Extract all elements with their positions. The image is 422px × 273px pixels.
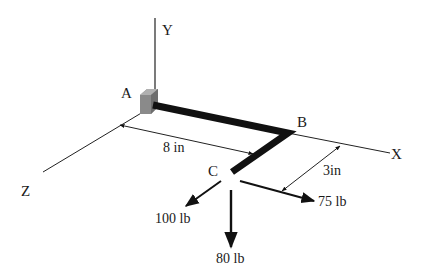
statics-diagram: Y X Z A B C 8 in 3in 100 lb 80 lb 75 lb — [0, 0, 422, 273]
z-axis — [43, 112, 143, 172]
point-a-label: A — [121, 85, 132, 101]
dimension-8in — [120, 125, 253, 154]
x-axis-label: X — [391, 146, 402, 162]
support-block-a — [140, 89, 158, 114]
force-100lb-arrow — [186, 181, 221, 206]
y-axis-label: Y — [162, 22, 173, 38]
rod — [153, 105, 288, 172]
x-axis — [288, 133, 390, 153]
dimension-ab-label: 8 in — [163, 140, 184, 155]
z-axis-label: Z — [21, 183, 30, 199]
force-100lb-label: 100 lb — [155, 211, 190, 226]
force-75lb-arrow — [240, 181, 314, 201]
dimension-bc-label: 3in — [323, 163, 341, 178]
force-75lb-label: 75 lb — [318, 194, 346, 209]
point-c-label: C — [208, 163, 218, 179]
point-b-label: B — [297, 114, 307, 130]
force-80lb-label: 80 lb — [216, 251, 244, 266]
